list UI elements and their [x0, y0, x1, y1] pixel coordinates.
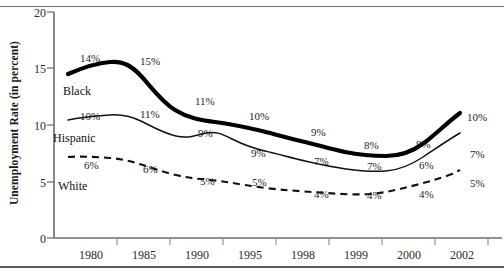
data-label-white-1990: 5% — [200, 175, 215, 187]
x-tick-label-1999: 1999 — [326, 248, 386, 263]
x-tick-label-1998: 1998 — [273, 248, 333, 263]
data-label-hispanic-1995: 9% — [251, 147, 266, 159]
data-label-black-2002: 10% — [467, 111, 487, 123]
x-tick-label-2002: 2002 — [432, 248, 492, 263]
data-label-white-2000: 4% — [419, 188, 434, 200]
data-label-black-1998: 9% — [311, 126, 326, 138]
x-tick-label-1980: 1980 — [61, 248, 121, 263]
data-label-hispanic-2002: 7% — [470, 148, 485, 160]
y-tick-label-5: 5 — [18, 176, 46, 191]
data-label-hispanic-1985: 11% — [140, 108, 160, 120]
data-label-hispanic-2000: 6% — [419, 159, 434, 171]
x-tick-label-1995: 1995 — [220, 248, 280, 263]
x-tick-label-2000: 2000 — [379, 248, 439, 263]
data-label-black-1990: 11% — [195, 95, 215, 107]
x-tick-label-1985: 1985 — [114, 248, 174, 263]
data-label-white-1995: 5% — [252, 176, 267, 188]
series-line-hispanic — [68, 115, 460, 172]
unemployment-rate-line-chart: Unemployment Rate (in percent) 20 15 10 — [0, 0, 504, 271]
data-label-black-1995: 10% — [249, 110, 269, 122]
data-label-white-1999: 4% — [367, 189, 382, 201]
series-label-white: White — [58, 179, 87, 194]
y-tick-label-15: 15 — [18, 62, 46, 77]
data-label-hispanic-1998: 7% — [314, 155, 329, 167]
y-tick-label-10: 10 — [18, 119, 46, 134]
y-tick-label-0: 0 — [18, 232, 46, 247]
series-label-black: Black — [63, 84, 91, 99]
data-label-black-2000: 8% — [416, 138, 431, 150]
axes — [47, 12, 502, 245]
data-label-black-1999: 8% — [364, 139, 379, 151]
series-line-black — [68, 62, 460, 156]
data-label-white-1998: 4% — [314, 188, 329, 200]
series-label-hispanic: Hispanic — [53, 131, 96, 146]
data-label-black-1985: 15% — [140, 55, 160, 67]
data-label-hispanic-1990: 9% — [198, 127, 213, 139]
data-label-white-1980: 6% — [84, 159, 99, 171]
data-label-hispanic-1999: 7% — [367, 160, 382, 172]
y-tick-label-20: 20 — [18, 6, 46, 21]
data-label-white-1985: 6% — [143, 163, 158, 175]
x-tick-label-1990: 1990 — [167, 248, 227, 263]
data-label-black-1980: 14% — [80, 52, 100, 64]
data-label-white-2002: 5% — [470, 177, 485, 189]
data-label-hispanic-1980: 10% — [80, 110, 100, 122]
